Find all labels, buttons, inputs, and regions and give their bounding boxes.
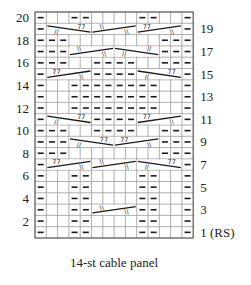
row-number-right: 13: [200, 89, 213, 104]
svg-text:77: 77: [143, 113, 151, 121]
cable-symbol: 77\\: [115, 136, 159, 149]
row-number-right: 15: [200, 67, 213, 82]
row-number-left: 20: [16, 10, 29, 25]
cable-symbol: //77: [47, 23, 91, 36]
chart-caption: 14-st cable panel: [35, 255, 193, 271]
svg-text:77: 77: [77, 23, 85, 31]
cable-symbol: //77: [70, 136, 114, 149]
cable-symbol: 77\\: [47, 158, 91, 171]
svg-text:77: 77: [120, 136, 128, 144]
svg-text:77: 77: [52, 68, 60, 76]
cable-symbol: //77: [137, 158, 181, 171]
row-number-right: 11: [200, 112, 213, 127]
row-number-right: 5: [200, 180, 207, 195]
row-number-left: 10: [16, 123, 29, 138]
row-number-left: 12: [16, 101, 29, 116]
row-number-right: 7: [200, 157, 207, 172]
cable-symbol: \\\\: [92, 204, 136, 217]
svg-text:77: 77: [100, 136, 108, 144]
row-number-right: 17: [200, 44, 214, 59]
row-number-left: 16: [16, 55, 30, 70]
row-number-right: 19: [200, 21, 213, 36]
cable-symbol: //77: [137, 68, 181, 81]
svg-text:77: 77: [168, 158, 176, 166]
cable-symbol: \\\\: [70, 45, 114, 58]
svg-text:77: 77: [52, 158, 60, 166]
cable-symbol: 77\\: [137, 113, 181, 126]
svg-text:77: 77: [77, 113, 85, 121]
cable-symbol: 77\\: [47, 68, 91, 81]
knitting-chart: //77\\\\77\\\\\\////77\\//77//7777\\//77…: [0, 0, 251, 285]
svg-text:77: 77: [168, 68, 176, 76]
row-number-right: 3: [200, 202, 207, 217]
row-number-right: 9: [200, 134, 207, 149]
row-number-left: 14: [16, 78, 30, 93]
cable-symbol: 77\\: [137, 23, 181, 36]
row-number-right: 1 (RS): [200, 225, 234, 240]
cable-symbol: \\\\: [92, 23, 136, 36]
cable-symbol: ////: [115, 45, 159, 58]
svg-text:77: 77: [143, 23, 151, 31]
row-number-left: 8: [23, 146, 30, 161]
cable-symbol: //77: [47, 113, 91, 126]
row-number-left: 2: [23, 214, 30, 229]
row-number-left: 18: [16, 33, 29, 48]
cable-symbol: \\\\: [92, 158, 136, 171]
row-number-left: 6: [23, 168, 30, 183]
row-number-left: 4: [23, 191, 30, 206]
